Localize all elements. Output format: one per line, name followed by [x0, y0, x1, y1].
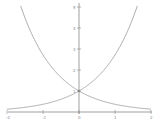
- x-tick-label: 2: [150, 115, 153, 120]
- y-tick-label: 5: [73, 5, 76, 10]
- intersection-point: [78, 90, 80, 92]
- x-tick-label: -2: [6, 115, 10, 120]
- y-tick-label: 4: [73, 26, 76, 31]
- x-tick-label: 1: [114, 115, 117, 120]
- y-ticks: 12345: [73, 5, 81, 94]
- exponential-plot: -2-1012 12345: [0, 0, 159, 125]
- x-tick-label: 0: [78, 115, 81, 120]
- x-tick-label: -1: [42, 115, 46, 120]
- y-tick-label: 3: [73, 47, 76, 52]
- y-tick-label: 2: [73, 68, 76, 73]
- x-ticks: -2-1012: [6, 110, 153, 120]
